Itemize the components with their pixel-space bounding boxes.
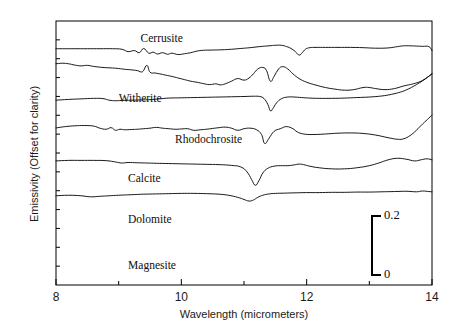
curve-label-cerrusite: Cerrusite <box>141 32 183 44</box>
scale-bar-top-label: 0.2 <box>384 208 400 223</box>
spectral-curves <box>56 45 432 201</box>
curve-dolomite <box>56 158 432 185</box>
y-axis-title: Emissivity (Offset for clarity) <box>28 34 40 274</box>
x-tick-label-14: 14 <box>417 290 447 304</box>
scale-bar-bottom-label: 0 <box>384 267 390 282</box>
curve-label-calcite: Calcite <box>128 172 161 184</box>
curve-rhodochrosite <box>56 74 432 111</box>
curve-magnesite <box>56 191 432 201</box>
caption-sliver <box>8 320 448 330</box>
x-axis-title: Wavelength (micrometers) <box>56 308 432 320</box>
curve-label-witherite: Witherite <box>119 92 162 104</box>
curve-label-rhodochrosite: Rhodochrosite <box>175 133 242 145</box>
curve-label-magnesite: Magnesite <box>128 259 176 271</box>
plot-frame <box>56 21 432 285</box>
x-tick-label-8: 8 <box>41 290 71 304</box>
spectral-emissivity-figure: Emissivity (Offset for clarity) Waveleng… <box>0 0 452 330</box>
axis-ticks <box>56 40 432 285</box>
curve-label-dolomite: Dolomite <box>128 213 171 225</box>
scale-bar-bracket <box>372 216 381 275</box>
curve-witherite <box>56 63 432 90</box>
scale-bar <box>372 216 381 275</box>
curve-cerrusite <box>56 45 432 55</box>
x-tick-label-12: 12 <box>292 290 322 304</box>
curve-calcite <box>56 115 432 144</box>
x-tick-label-10: 10 <box>166 290 196 304</box>
